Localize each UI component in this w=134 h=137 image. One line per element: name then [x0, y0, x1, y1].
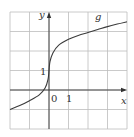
grid-lines: [10, 12, 127, 129]
x-axis-arrow-icon: [121, 88, 127, 92]
y-tick-label-1: 1: [40, 66, 46, 77]
origin-label: 0: [51, 93, 57, 104]
x-tick-label-1: 1: [66, 93, 72, 104]
y-axis-arrow-icon: [47, 12, 51, 18]
y-axis-label: y: [38, 9, 45, 20]
function-graph: y x 0 1 1 g: [0, 0, 134, 137]
curve-label-g: g: [95, 11, 101, 22]
x-axis-label: x: [121, 95, 127, 106]
